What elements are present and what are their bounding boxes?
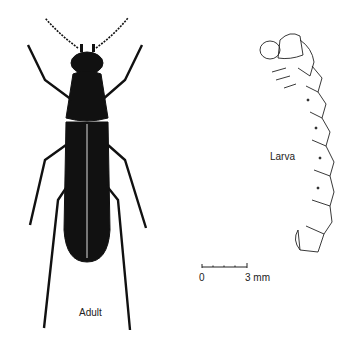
scale-bar-end-label: 3 mm [245,272,270,283]
scale-bar [202,263,247,268]
adult-beetle-drawing [28,18,146,330]
illustration-svg [0,0,356,348]
adult-label: Adult [79,307,102,318]
larva-label: Larva [270,151,295,162]
larva-drawing [260,34,334,252]
scale-bar-start-label: 0 [199,272,205,283]
beetle-illustration-figure: Adult Larva 0 3 mm [0,0,356,348]
